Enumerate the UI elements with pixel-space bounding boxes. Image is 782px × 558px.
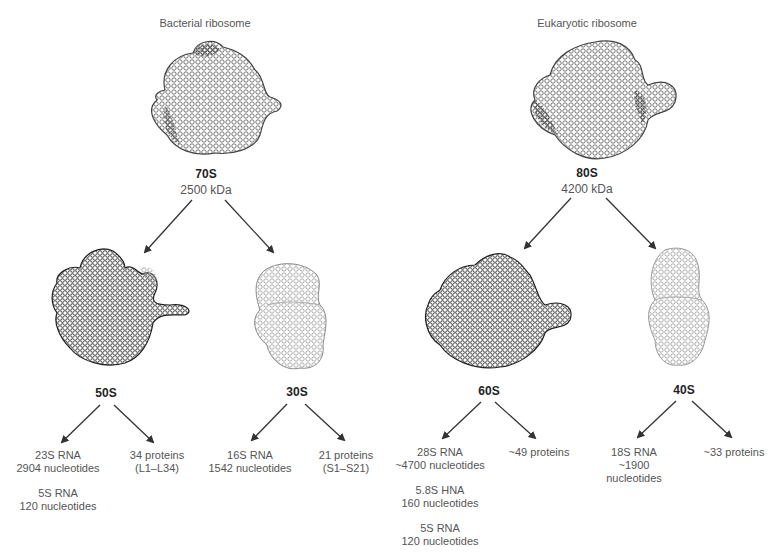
50s-proteins-range: (L1–L34) bbox=[130, 462, 184, 475]
40s-proteins-count: ~33 proteins bbox=[704, 446, 765, 459]
5-8s-rna-name: 5.8S HNA bbox=[401, 484, 478, 497]
60s-proteins-label: ~49 proteins bbox=[509, 446, 570, 459]
23s-rna-length: 2904 nucleotides bbox=[16, 462, 99, 475]
arrow-80s-to-60s bbox=[525, 198, 571, 248]
arrow-70s-to-30s bbox=[225, 200, 273, 252]
arrow-60s-to-rna bbox=[443, 402, 481, 438]
18s-rna-label: 18S RNA ~1900 nucleotides bbox=[606, 446, 662, 485]
50s-proteins-label: 34 proteins (L1–L34) bbox=[130, 449, 184, 475]
23s-rna-name: 23S RNA bbox=[16, 449, 99, 462]
40s-label: 40S bbox=[673, 383, 694, 397]
arrow-50s-to-proteins bbox=[114, 405, 153, 442]
28s-rna-label: 28S RNA ~4700 nucleotides bbox=[395, 446, 485, 472]
5s-rna-label-eukaryotic: 5S RNA 120 nucleotides bbox=[401, 522, 478, 548]
5s-rna-label-bacterial: 5S RNA 120 nucleotides bbox=[19, 487, 96, 513]
60s-label: 60S bbox=[478, 384, 499, 398]
30s-label: 30S bbox=[286, 385, 307, 399]
5s-rna-length: 120 nucleotides bbox=[19, 500, 96, 513]
eukaryotic-title: Eukaryotic ribosome bbox=[537, 17, 637, 29]
5s-rna-name: 5S RNA bbox=[19, 487, 96, 500]
5-8s-rna-label: 5.8S HNA 160 nucleotides bbox=[401, 484, 478, 510]
28s-rna-name: 28S RNA bbox=[395, 446, 485, 459]
70s-label: 70S bbox=[195, 167, 216, 181]
16s-rna-label: 16S RNA 1542 nucleotides bbox=[208, 449, 291, 475]
arrow-50s-to-rna bbox=[62, 405, 100, 442]
30s-proteins-range: (S1–S21) bbox=[319, 462, 373, 475]
arrow-40s-to-rna bbox=[638, 401, 676, 437]
5-8s-rna-length: 160 nucleotides bbox=[401, 497, 478, 510]
18s-rna-name: 18S RNA bbox=[606, 446, 662, 459]
80s-mass: 4200 kDa bbox=[561, 182, 612, 196]
arrow-60s-to-proteins bbox=[495, 402, 535, 438]
70s-mass: 2500 kDa bbox=[180, 183, 231, 197]
arrow-80s-to-40s bbox=[606, 198, 655, 248]
40s-proteins-label: ~33 proteins bbox=[704, 446, 765, 459]
30s-proteins-label: 21 proteins (S1–S21) bbox=[319, 449, 373, 475]
60s-proteins-count: ~49 proteins bbox=[509, 446, 570, 459]
50s-proteins-count: 34 proteins bbox=[130, 449, 184, 462]
80s-label: 80S bbox=[576, 166, 597, 180]
arrow-30s-to-proteins bbox=[305, 404, 344, 440]
5s-rna-length-euk: 120 nucleotides bbox=[401, 535, 478, 548]
30s-proteins-count: 21 proteins bbox=[319, 449, 373, 462]
50s-label: 50S bbox=[95, 386, 116, 400]
arrow-40s-to-proteins bbox=[692, 401, 731, 437]
18s-rna-unit: nucleotides bbox=[606, 472, 662, 485]
arrow-70s-to-50s bbox=[145, 200, 192, 252]
28s-rna-length: ~4700 nucleotides bbox=[395, 459, 485, 472]
18s-rna-length: ~1900 bbox=[606, 459, 662, 472]
16s-rna-name: 16S RNA bbox=[208, 449, 291, 462]
arrows-layer bbox=[0, 0, 782, 558]
16s-rna-length: 1542 nucleotides bbox=[208, 462, 291, 475]
23s-rna-label: 23S RNA 2904 nucleotides bbox=[16, 449, 99, 475]
bacterial-title: Bacterial ribosome bbox=[159, 17, 250, 29]
5s-rna-name-euk: 5S RNA bbox=[401, 522, 478, 535]
arrow-30s-to-rna bbox=[252, 404, 287, 440]
